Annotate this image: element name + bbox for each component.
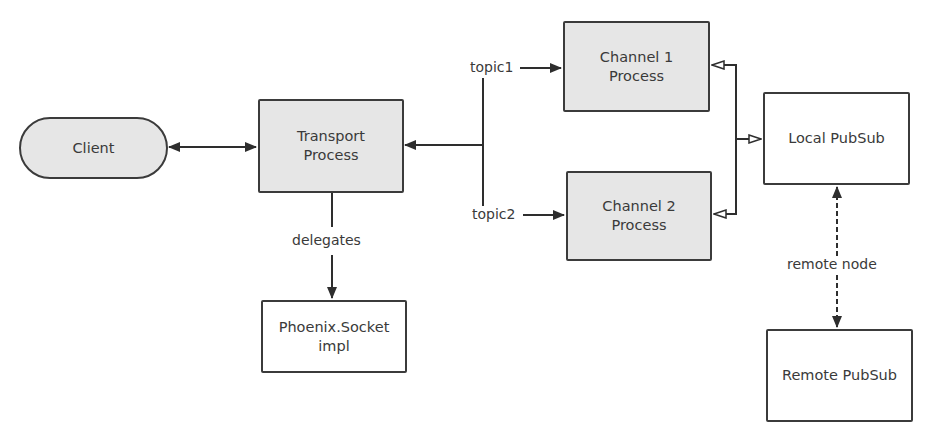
- client-label: Client: [73, 139, 115, 158]
- phoenix-socket-label: Phoenix.Socket impl: [279, 318, 390, 356]
- local-pubsub-label: Local PubSub: [788, 129, 885, 148]
- topic2-label: topic2: [470, 206, 517, 222]
- channel-1-process-node: Channel 1 Process: [563, 21, 710, 112]
- remote-pubsub-label: Remote PubSub: [782, 366, 897, 385]
- topic1-label: topic1: [468, 59, 515, 75]
- remote-pubsub-node: Remote PubSub: [766, 329, 913, 422]
- client-node: Client: [19, 117, 168, 179]
- transport-label: Transport Process: [297, 127, 365, 165]
- delegates-label: delegates: [290, 232, 363, 248]
- channel1-label: Channel 1 Process: [600, 48, 673, 86]
- transport-process-node: Transport Process: [258, 99, 404, 193]
- channel2-label: Channel 2 Process: [602, 197, 675, 235]
- phoenix-socket-node: Phoenix.Socket impl: [261, 300, 407, 373]
- remote-node-label: remote node: [785, 256, 879, 272]
- channel-2-process-node: Channel 2 Process: [566, 171, 712, 261]
- pubsub-bus-line: [712, 65, 736, 214]
- local-pubsub-node: Local PubSub: [763, 92, 910, 185]
